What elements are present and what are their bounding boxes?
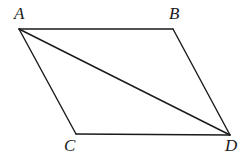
- edge-ad-diagonal: [19, 29, 230, 135]
- edge-ca-left: [19, 29, 76, 134]
- edge-group: [19, 29, 230, 135]
- vertex-label-d: D: [225, 137, 237, 154]
- edge-bd-right: [173, 29, 230, 135]
- vertex-label-b: B: [169, 5, 179, 22]
- geometry-figure: A B C D: [0, 0, 249, 159]
- edge-dc-bottom: [76, 134, 230, 135]
- vertex-label-c: C: [64, 137, 75, 154]
- parallelogram-diagram: [0, 0, 249, 159]
- vertex-label-a: A: [14, 5, 24, 22]
